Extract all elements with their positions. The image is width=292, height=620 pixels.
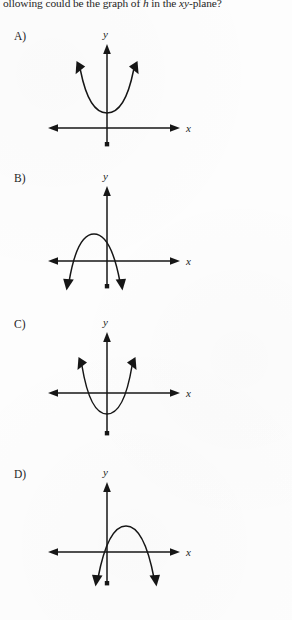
choice-a-graph: y x	[40, 30, 210, 148]
choice-b-graph: y x	[40, 172, 210, 290]
choice-c-y-label: y	[102, 316, 108, 328]
choice-b-x-label: x	[185, 255, 191, 267]
question-stem-suffix: -plane?	[189, 0, 222, 9]
question-stem-middle: in the	[149, 0, 180, 9]
choice-d-y-label: y	[102, 466, 108, 478]
question-stem-variable-xy: xy	[179, 0, 189, 9]
choice-a-label: A)	[14, 30, 26, 43]
choice-d-label: D)	[14, 468, 26, 481]
choice-c-label: C)	[14, 318, 26, 331]
choice-a-y-label: y	[102, 28, 108, 40]
choice-c-x-label: x	[185, 387, 191, 399]
choice-d-x-label: x	[185, 546, 191, 558]
choice-b-label: B)	[14, 172, 26, 185]
question-stem: ollowing could be the graph of h in the …	[3, 0, 289, 10]
choice-c-graph: y x	[40, 318, 210, 436]
choice-a-x-label: x	[185, 122, 191, 134]
choice-d-graph: y x	[40, 468, 210, 586]
choice-b-y-label: y	[102, 170, 108, 182]
question-page: ollowing could be the graph of h in the …	[0, 0, 292, 620]
question-stem-prefix: ollowing could be the graph of	[3, 0, 143, 9]
